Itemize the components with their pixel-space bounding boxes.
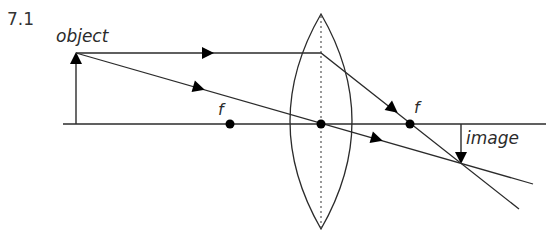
ray-arrowhead-icon [192, 81, 207, 96]
focal-label-left: f [218, 100, 224, 119]
ray-arrowhead-icon [202, 47, 214, 59]
optical-center-dot [317, 120, 326, 129]
central-ray [76, 53, 533, 184]
focal-point-right-dot [406, 120, 415, 129]
parallel-ray [76, 53, 519, 209]
focal-label-right: f [414, 98, 420, 117]
focal-point-left-dot [226, 120, 235, 129]
object-label: object [56, 26, 108, 46]
ray-arrowhead-icon [370, 132, 385, 147]
image-label: image [466, 128, 519, 148]
